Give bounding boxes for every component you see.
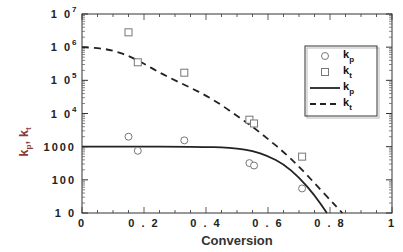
legend: kpktkpkt <box>305 46 379 118</box>
y-axis-title: kp, kt <box>16 127 33 157</box>
marker-kp <box>299 185 306 192</box>
svg-text:kp, kt: kp, kt <box>16 127 33 157</box>
y-tick-exponent: 4 <box>72 105 78 114</box>
y-tick-exponent: 7 <box>72 5 78 14</box>
chart: 1 071 061 051 0410001001 0 00 . 20 . 40 … <box>0 0 403 252</box>
x-tick-label: 0 . 2 <box>128 217 159 229</box>
x-tick-label: 0 . 8 <box>314 217 345 229</box>
marker-kt <box>299 153 306 160</box>
y-tick-exponent: 6 <box>72 38 78 47</box>
x-axis-title: Conversion <box>201 233 273 248</box>
y-axis-tick-labels: 1 071 061 051 0410001001 0 <box>44 5 79 219</box>
y-tick-label: 1 0 <box>51 74 72 86</box>
series-markers <box>125 29 306 192</box>
x-tick-label: 0 . 6 <box>252 217 283 229</box>
x-axis-tick-labels: 00 . 20 . 40 . 60 . 81 <box>78 217 396 229</box>
marker-kt <box>125 29 132 36</box>
y-tick-label: 100 <box>52 174 76 186</box>
marker-kt <box>181 69 188 76</box>
circle-marker-icon <box>322 53 329 60</box>
marker-kp <box>251 162 258 169</box>
y-tick-label: 1 0 <box>51 8 72 20</box>
series-line-kp-solid <box>82 147 327 213</box>
marker-kt <box>251 120 258 127</box>
marker-kp <box>134 147 141 154</box>
square-marker-icon <box>322 69 329 76</box>
y-tick-label: 1 0 <box>51 108 72 120</box>
marker-kt <box>134 59 141 66</box>
x-tick-label: 0 . 4 <box>190 217 221 229</box>
x-tick-label: 1 <box>388 217 396 229</box>
marker-kp <box>181 137 188 144</box>
y-tick-label: 1 0 <box>51 41 72 53</box>
y-tick-label: 1000 <box>44 141 76 153</box>
marker-kp <box>125 133 132 140</box>
y-tick-label: 1 0 <box>55 207 76 219</box>
y-tick-exponent: 5 <box>72 71 78 80</box>
x-tick-label: 0 <box>78 217 86 229</box>
